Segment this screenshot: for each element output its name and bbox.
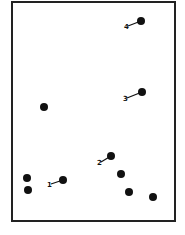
dot: [117, 170, 125, 178]
dot: [149, 193, 157, 201]
dot: [24, 186, 32, 194]
dot: [40, 103, 48, 111]
dot: [125, 188, 133, 196]
dot: [107, 152, 115, 160]
frame-border: [12, 2, 175, 221]
dot-label: 2: [97, 159, 102, 167]
dot-label: 3: [123, 95, 128, 103]
dot-label: 4: [124, 23, 129, 31]
dot: [138, 88, 146, 96]
dot: [59, 176, 67, 184]
dot: [137, 17, 145, 25]
dots-group: 4321: [23, 17, 157, 201]
dot-diagram: 4321: [0, 0, 185, 235]
dot: [23, 174, 31, 182]
dot-label: 1: [47, 181, 52, 189]
